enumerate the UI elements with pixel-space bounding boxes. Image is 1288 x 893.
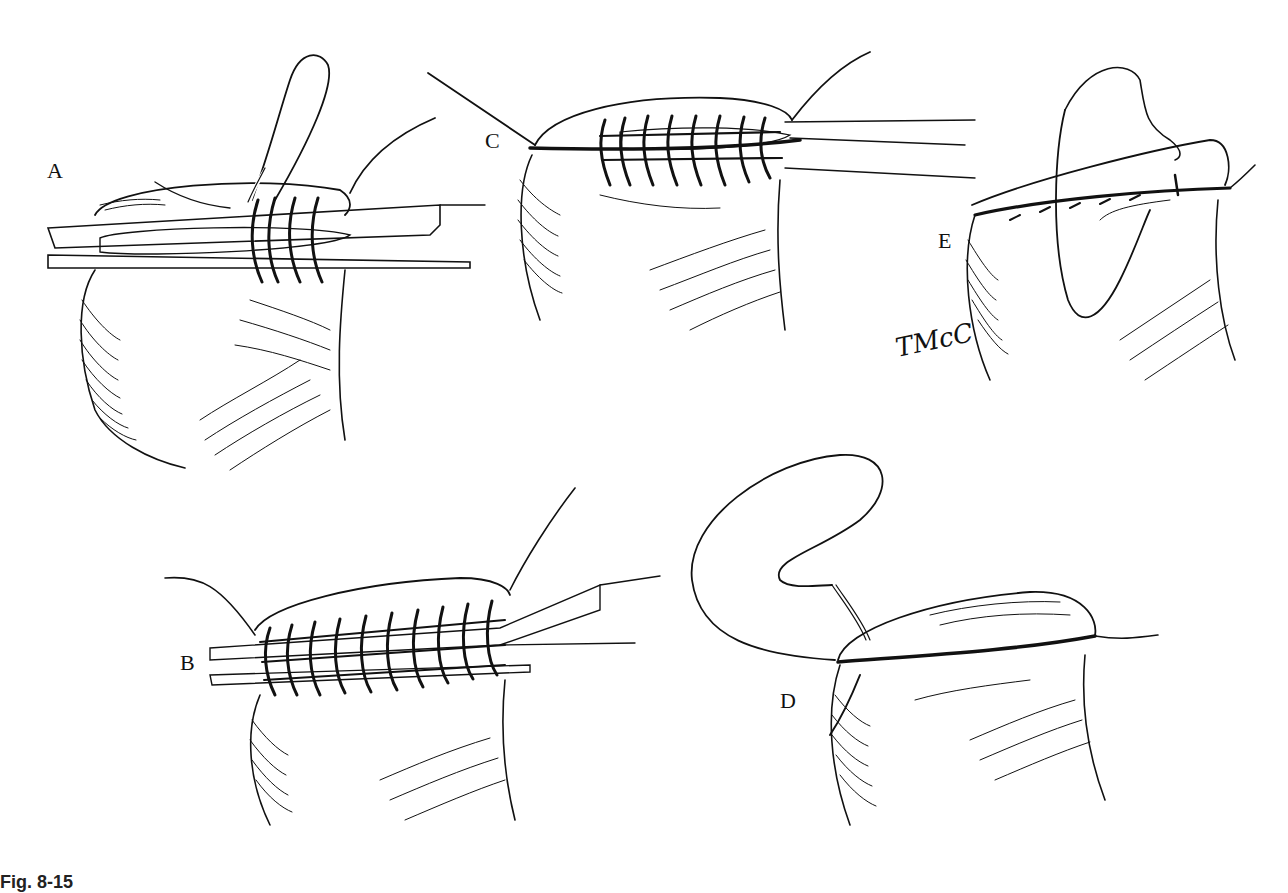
figure-caption: Fig. 8-15	[0, 872, 73, 893]
panel-a: A	[0, 0, 490, 480]
illustration-e	[950, 40, 1288, 420]
illustration-d	[680, 440, 1180, 840]
panel-b: B	[160, 480, 670, 840]
illustration-b	[160, 480, 670, 840]
illustration-a	[0, 0, 490, 480]
panel-e: E TMcC	[950, 40, 1288, 420]
panel-d: D	[680, 440, 1180, 840]
panel-c: C	[420, 40, 980, 380]
illustration-c	[420, 40, 980, 380]
